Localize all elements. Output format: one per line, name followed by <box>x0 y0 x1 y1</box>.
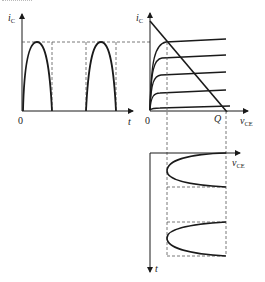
right-x-axis-label: vCE <box>240 116 253 128</box>
characteristic-curve-4 <box>150 55 226 110</box>
left-origin-label: 0 <box>18 116 23 126</box>
bottom-t-axis-label: t <box>155 264 158 274</box>
left-plot <box>22 14 150 111</box>
bottom-x-axis-label: vCE <box>232 158 245 170</box>
left-x-axis-label: t <box>128 117 131 127</box>
bottom-plot <box>150 153 240 272</box>
right-origin-label: 0 <box>145 116 150 126</box>
diagram-canvas <box>0 0 265 282</box>
left-y-axis-label: iC <box>8 13 15 25</box>
vce-pulse-1 <box>167 153 226 187</box>
right-plot <box>150 13 248 256</box>
q-point-label: Q <box>214 114 221 124</box>
characteristic-curve-1 <box>150 106 230 110</box>
vce-pulse-2 <box>167 222 226 256</box>
load-line <box>150 21 227 112</box>
half-wave-pulse-1 <box>23 42 52 111</box>
half-wave-pulse-2 <box>86 42 116 111</box>
right-y-axis-label: iC <box>136 13 143 25</box>
